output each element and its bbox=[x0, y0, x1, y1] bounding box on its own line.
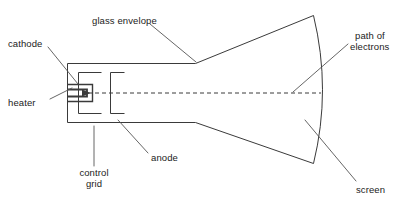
label-anode: anode bbox=[151, 152, 178, 164]
leader-glass-envelope bbox=[150, 24, 196, 62]
crt-schematic-svg bbox=[0, 0, 406, 208]
label-control-grid-line2: grid bbox=[64, 178, 124, 190]
flare-lower-edge bbox=[196, 123, 314, 164]
leader-lines bbox=[48, 24, 356, 181]
label-control-grid-line1: control bbox=[64, 167, 124, 179]
label-glass-envelope: glass envelope bbox=[92, 15, 157, 27]
crt-diagram: glass envelope cathode heater control gr… bbox=[0, 0, 406, 208]
leader-cathode bbox=[48, 47, 78, 84]
glass-envelope-shape bbox=[68, 16, 323, 164]
leader-screen bbox=[305, 120, 356, 181]
label-cathode: cathode bbox=[8, 38, 43, 50]
label-heater: heater bbox=[8, 97, 36, 109]
label-path-of-electrons-line1: path of bbox=[355, 30, 385, 42]
leader-anode bbox=[118, 120, 148, 153]
label-path-of-electrons-line2: electrons bbox=[350, 41, 389, 53]
flare-upper-edge bbox=[196, 16, 314, 64]
label-screen: screen bbox=[356, 184, 385, 196]
screen-face-curve bbox=[314, 16, 323, 164]
